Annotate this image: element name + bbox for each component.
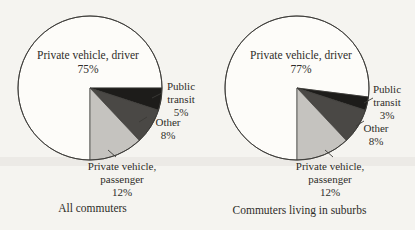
- slice-label-passenger-text: Private vehicle, passenger: [296, 160, 364, 185]
- slice-label-other: Other 8%: [142, 116, 194, 142]
- slice-label-public-transit: Public transit 5%: [154, 80, 208, 119]
- slice-value-driver: 77%: [231, 62, 371, 76]
- slice-label-other-text: Other: [363, 122, 388, 134]
- slice-label-passenger: Private vehicle, passenger 12%: [72, 160, 172, 199]
- slice-label-other-text: Other: [155, 116, 180, 128]
- slice-value-other: 8%: [350, 135, 402, 148]
- slice-label-driver: Private vehicle, driver 77%: [231, 48, 371, 76]
- slice-value-driver: 75%: [18, 62, 158, 76]
- slice-label-driver-text: Private vehicle, driver: [250, 49, 352, 61]
- slice-value-public-transit: 3%: [360, 109, 414, 122]
- slice-label-driver: Private vehicle, driver 75%: [18, 48, 158, 76]
- slice-label-public-transit: Public transit 3%: [360, 83, 414, 122]
- slice-label-public-transit-text: Public transit: [167, 80, 195, 105]
- chart-caption-all-commuters: All commuters: [25, 201, 160, 215]
- scanned-figure-page: Private vehicle, driver 75% Public trans…: [0, 0, 415, 230]
- slice-label-other: Other 8%: [350, 122, 402, 148]
- slice-label-passenger: Private vehicle, passenger 12%: [280, 160, 380, 199]
- slice-label-driver-text: Private vehicle, driver: [37, 49, 139, 61]
- slice-label-passenger-text: Private vehicle, passenger: [88, 160, 156, 185]
- chart-caption-suburbs: Commuters living in suburbs: [222, 203, 377, 217]
- slice-value-other: 8%: [142, 129, 194, 142]
- slice-value-passenger: 12%: [280, 186, 380, 199]
- slice-value-passenger: 12%: [72, 186, 172, 199]
- slice-label-public-transit-text: Public transit: [373, 83, 401, 108]
